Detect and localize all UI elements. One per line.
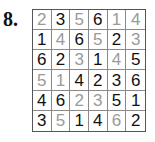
- grid-cell-r4-c6: 6: [126, 70, 145, 90]
- puzzle-number: 8.: [3, 8, 18, 30]
- grid-cell-r6-c4: 4: [89, 111, 108, 131]
- grid-cell-r4-c1: 5: [33, 70, 52, 90]
- grid-cell-r1-c2: 3: [52, 10, 71, 30]
- grid-cell-r1-c4: 6: [89, 10, 108, 30]
- grid-cell-r5-c5: 5: [108, 91, 127, 111]
- grid-cell-r5-c4: 3: [89, 91, 108, 111]
- grid-cell-r6-c5: 6: [108, 111, 127, 131]
- grid-cell-r1-c6: 4: [126, 10, 145, 30]
- grid-cell-r1-c5: 1: [108, 10, 127, 30]
- grid-cell-r3-c3: 3: [70, 50, 89, 70]
- grid-cell-r2-c2: 4: [52, 30, 71, 50]
- grid-cell-r3-c4: 1: [89, 50, 108, 70]
- grid-cell-r2-c5: 2: [108, 30, 127, 50]
- grid-cell-r2-c3: 6: [70, 30, 89, 50]
- grid-cell-r6-c3: 1: [70, 111, 89, 131]
- grid-cell-r5-c1: 4: [33, 91, 52, 111]
- grid-cell-r2-c4: 5: [89, 30, 108, 50]
- grid-cell-r4-c5: 3: [108, 70, 127, 90]
- grid-cell-r3-c5: 4: [108, 50, 127, 70]
- grid-cell-r3-c2: 2: [52, 50, 71, 70]
- grid-cell-r5-c2: 6: [52, 91, 71, 111]
- grid-cell-r3-c6: 5: [126, 50, 145, 70]
- grid-cell-r5-c3: 2: [70, 91, 89, 111]
- grid-cell-r1-c3: 5: [70, 10, 89, 30]
- grid-cell-r3-c1: 6: [33, 50, 52, 70]
- grid-cell-r4-c4: 2: [89, 70, 108, 90]
- sudoku-grid: 235614146523623145514236462351351462: [32, 9, 146, 132]
- grid-cell-r6-c2: 5: [52, 111, 71, 131]
- grid-cell-r1-c1: 2: [33, 10, 52, 30]
- grid-cell-r4-c3: 4: [70, 70, 89, 90]
- grid-cell-r4-c2: 1: [52, 70, 71, 90]
- grid-cell-r6-c6: 2: [126, 111, 145, 131]
- grid-cell-r6-c1: 3: [33, 111, 52, 131]
- grid-cell-r2-c1: 1: [33, 30, 52, 50]
- grid-cell-r5-c6: 1: [126, 91, 145, 111]
- grid-cell-r2-c6: 3: [126, 30, 145, 50]
